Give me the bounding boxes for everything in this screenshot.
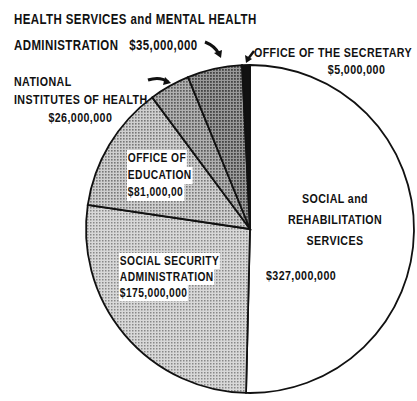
label-srs-line1: SOCIAL and: [282, 188, 389, 209]
label-srs: SOCIAL and REHABILITATION SERVICES: [282, 188, 389, 251]
label-ssa-line2: ADMINISTRATION: [119, 269, 214, 285]
label-hsmha: HEALTH SERVICES and MENTAL HEALTH ADMINI…: [14, 6, 257, 58]
label-ssa: SOCIAL SECURITY ADMINISTRATION $175,000,…: [119, 253, 220, 301]
label-srs-line2: REHABILITATION: [282, 209, 389, 230]
label-hsmha-line2: ADMINISTRATION: [14, 37, 118, 53]
label-ssa-line1: SOCIAL SECURITY: [119, 253, 220, 269]
label-education-line2: EDUCATION: [127, 167, 193, 184]
label-secretary-line1: OFFICE OF THE SECRETARY: [254, 44, 412, 61]
label-hsmha-line1: HEALTH SERVICES and MENTAL HEALTH: [14, 6, 257, 32]
label-nih: NATIONAL INSTITUTES OF HEALTH $26,000,00…: [14, 73, 148, 127]
label-nih-line1: NATIONAL: [14, 73, 148, 91]
label-nih-amount: $26,000,000: [14, 109, 148, 127]
label-srs-amount: $327,000,000: [266, 268, 336, 284]
label-nih-line2: INSTITUTES OF HEALTH: [14, 91, 148, 109]
label-hsmha-amount: $35,000,000: [129, 37, 197, 53]
label-secretary: OFFICE OF THE SECRETARY $5,000,000: [254, 44, 412, 78]
label-education-amount: $81,000,00: [127, 184, 184, 201]
label-hsmha-line2-row: ADMINISTRATION $35,000,000: [14, 32, 257, 58]
label-srs-line3: SERVICES: [282, 230, 389, 251]
label-ssa-amount: $175,000,000: [119, 285, 188, 301]
label-education-line1: OFFICE OF: [127, 150, 187, 167]
label-secretary-amount: $5,000,000: [254, 61, 412, 78]
label-education: OFFICE OF EDUCATION $81,000,00: [127, 150, 193, 201]
